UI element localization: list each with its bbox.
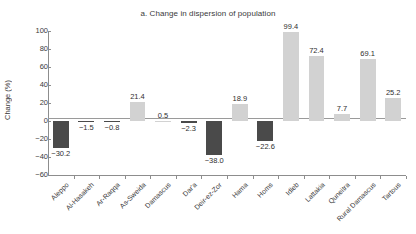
- x-axis-category-label: Ar-Raqqa: [73, 181, 120, 228]
- y-tick-mark: [48, 103, 51, 104]
- x-axis-category-label: Deir-ez-Zor: [176, 181, 223, 228]
- bar-value-label: 25.2: [375, 88, 411, 97]
- bar-value-label: 18.9: [222, 94, 258, 103]
- x-tick-mark: [355, 176, 356, 179]
- bar[interactable]: [385, 98, 401, 121]
- x-tick-mark: [201, 176, 202, 179]
- y-tick: 0: [0, 121, 56, 122]
- bar[interactable]: [257, 121, 273, 141]
- x-tick-mark: [253, 176, 254, 179]
- x-axis-category-label: As-Sweida: [99, 181, 146, 228]
- bar[interactable]: [53, 121, 69, 148]
- bar-value-label: −22.6: [248, 142, 284, 151]
- x-tick-mark: [406, 176, 407, 179]
- bar-value-label: 69.1: [350, 49, 386, 58]
- zero-baseline: [48, 118, 406, 119]
- y-tick-mark: [48, 175, 51, 176]
- bar-value-label: −0.8: [94, 123, 130, 132]
- y-axis-label: Change (%): [2, 62, 12, 138]
- bar[interactable]: [130, 102, 146, 121]
- bar-value-label: 72.4: [299, 46, 335, 55]
- bar[interactable]: [232, 104, 248, 121]
- x-axis-category-label: Al-Hasakeh: [48, 181, 95, 228]
- bar[interactable]: [78, 121, 94, 122]
- bar-value-label: 99.4: [273, 22, 309, 31]
- bar-value-label: −38.0: [196, 156, 232, 165]
- bar[interactable]: [360, 59, 376, 121]
- x-tick-mark: [150, 176, 151, 179]
- y-tick-label: 80: [40, 44, 48, 53]
- x-axis-category-label: Damascus: [125, 181, 172, 228]
- bar-value-label: 0.5: [145, 111, 181, 120]
- y-tick-label: 40: [40, 80, 48, 89]
- y-tick: −60: [0, 175, 56, 176]
- bar[interactable]: [206, 121, 222, 155]
- x-tick-mark: [304, 176, 305, 179]
- y-tick-mark: [48, 85, 51, 86]
- y-tick: 80: [0, 49, 56, 50]
- bar-value-label: 7.7: [324, 104, 360, 113]
- x-axis-category-label: Homs: [227, 181, 274, 228]
- x-tick-mark: [227, 176, 228, 179]
- y-tick: 40: [0, 85, 56, 86]
- x-axis-category-label: Quneitra: [304, 181, 351, 228]
- y-tick-mark: [48, 31, 51, 32]
- bar-value-label: −2.3: [171, 124, 207, 133]
- y-tick: 20: [0, 103, 56, 104]
- y-tick-label: −20: [35, 134, 48, 143]
- y-tick-label: 100: [35, 26, 48, 35]
- bar[interactable]: [283, 32, 299, 121]
- x-tick-mark: [176, 176, 177, 179]
- x-axis-category-label: Dar'a: [150, 181, 197, 228]
- y-tick-mark: [48, 49, 51, 50]
- y-tick-mark: [48, 139, 51, 140]
- chart-title: a. Change in dispersion of population: [0, 9, 416, 18]
- x-axis-category-label: Rural Damascus: [329, 181, 376, 228]
- bar-value-label: 21.4: [120, 92, 156, 101]
- x-tick-mark: [329, 176, 330, 179]
- x-axis-category-label: Tartous: [355, 181, 402, 228]
- y-tick: −20: [0, 139, 56, 140]
- x-tick-mark: [74, 176, 75, 179]
- bar[interactable]: [181, 121, 197, 123]
- y-tick: 60: [0, 67, 56, 68]
- y-tick-label: 20: [40, 98, 48, 107]
- y-tick-label: 60: [40, 62, 48, 71]
- x-axis-category-label: Hama: [201, 181, 248, 228]
- y-tick-mark: [48, 121, 51, 122]
- bar[interactable]: [104, 121, 120, 122]
- y-tick-label: −60: [35, 170, 48, 179]
- x-axis-category-label: Idleb: [252, 181, 299, 228]
- x-tick-mark: [380, 176, 381, 179]
- bar[interactable]: [309, 56, 325, 121]
- chart-figure: a. Change in dispersion of population Ch…: [0, 0, 416, 234]
- y-tick: 100: [0, 31, 56, 32]
- x-axis-category-label: Aleppo: [22, 181, 69, 228]
- bar[interactable]: [155, 121, 171, 122]
- bar[interactable]: [334, 114, 350, 121]
- y-tick-mark: [48, 67, 51, 68]
- bar-value-label: −30.2: [43, 149, 79, 158]
- x-axis-category-label: Lattakia: [278, 181, 325, 228]
- x-tick-mark: [278, 176, 279, 179]
- x-tick-mark: [99, 176, 100, 179]
- x-tick-mark: [125, 176, 126, 179]
